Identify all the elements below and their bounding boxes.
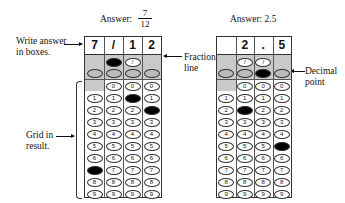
- bubble[interactable]: 7: [144, 166, 160, 175]
- arrow-icon: [64, 44, 82, 45]
- bubble[interactable]: 9: [106, 190, 122, 199]
- bubble[interactable]: 0: [106, 82, 122, 91]
- bubble[interactable]: 1: [106, 94, 122, 103]
- bubble[interactable]: 7: [255, 166, 271, 175]
- bubble[interactable]: 7: [106, 166, 122, 175]
- bubble[interactable]: 2: [255, 106, 271, 115]
- answer-box[interactable]: 1: [123, 37, 142, 54]
- bubble[interactable]: 5: [237, 142, 253, 151]
- bubble[interactable]: 4: [87, 130, 103, 139]
- answer-box[interactable]: /: [104, 37, 123, 54]
- bubble[interactable]: 8: [237, 178, 253, 187]
- answer-box[interactable]: .: [254, 37, 273, 54]
- bubble[interactable]: 2: [87, 106, 103, 115]
- bubble[interactable]: 2: [125, 106, 141, 115]
- bubble[interactable]: 5: [144, 142, 160, 151]
- bubble[interactable]: 1: [144, 94, 160, 103]
- bubble[interactable]: 9: [255, 190, 271, 199]
- bubble[interactable]: 6: [274, 154, 290, 163]
- bubble[interactable]: 5: [87, 142, 103, 151]
- bubble[interactable]: [274, 69, 290, 78]
- bubble[interactable]: 7: [274, 166, 290, 175]
- bubble[interactable]: [144, 69, 160, 78]
- bubble[interactable]: 3: [255, 118, 271, 127]
- bubble[interactable]: /: [125, 58, 141, 67]
- bubble[interactable]: 5: [255, 142, 271, 151]
- bubble[interactable]: 2: [218, 106, 234, 115]
- bubble[interactable]: 2: [106, 106, 122, 115]
- bubble[interactable]: [125, 69, 141, 78]
- bubble[interactable]: 9: [218, 190, 234, 199]
- bubble[interactable]: 9: [237, 190, 253, 199]
- bubble[interactable]: 8: [106, 178, 122, 187]
- bubble[interactable]: 6: [218, 154, 234, 163]
- answer-label-right: Answer: 2.5: [230, 14, 276, 25]
- bubble[interactable]: 8: [125, 178, 141, 187]
- bubble[interactable]: 4: [255, 130, 271, 139]
- bubble[interactable]: 4: [125, 130, 141, 139]
- bubble[interactable]: 3: [274, 118, 290, 127]
- bubble[interactable]: 8: [274, 178, 290, 187]
- bubble[interactable]: 5: [106, 142, 122, 151]
- bubble[interactable]: [87, 69, 103, 78]
- bubble[interactable]: 2: [274, 106, 290, 115]
- bubble[interactable]: 4: [274, 130, 290, 139]
- bubble[interactable]: /: [237, 58, 253, 67]
- bubble[interactable]: 3: [87, 118, 103, 127]
- bubble[interactable]: 9: [274, 190, 290, 199]
- bubble[interactable]: 4: [106, 130, 122, 139]
- bubble[interactable]: 1: [237, 94, 253, 103]
- bubble[interactable]: 1: [87, 94, 103, 103]
- filled-bubble[interactable]: [106, 58, 122, 67]
- bubble[interactable]: 3: [125, 118, 141, 127]
- bubble[interactable]: 1: [218, 94, 234, 103]
- filled-bubble[interactable]: [125, 94, 141, 103]
- bubble[interactable]: 8: [255, 178, 271, 187]
- bubble[interactable]: 4: [218, 130, 234, 139]
- bubble[interactable]: 6: [144, 154, 160, 163]
- bubble[interactable]: 9: [144, 190, 160, 199]
- bubble[interactable]: 0: [274, 82, 290, 91]
- bubble[interactable]: 3: [237, 118, 253, 127]
- bubble[interactable]: 1: [255, 94, 271, 103]
- grid-in-label: Grid in result.: [26, 130, 66, 152]
- bubble[interactable]: 5: [218, 142, 234, 151]
- bubble[interactable]: 6: [87, 154, 103, 163]
- bubble[interactable]: 6: [237, 154, 253, 163]
- bubble[interactable]: 8: [144, 178, 160, 187]
- bubble[interactable]: 8: [218, 178, 234, 187]
- bubble[interactable]: 0: [237, 82, 253, 91]
- bubble[interactable]: 3: [144, 118, 160, 127]
- bubble[interactable]: 7: [218, 166, 234, 175]
- answer-box[interactable]: 7: [85, 37, 104, 54]
- bubble[interactable]: 4: [237, 130, 253, 139]
- bubble[interactable]: 0: [144, 82, 160, 91]
- bubble[interactable]: 6: [106, 154, 122, 163]
- bubble[interactable]: 6: [255, 154, 271, 163]
- filled-bubble[interactable]: [144, 106, 160, 115]
- bubble[interactable]: 3: [218, 118, 234, 127]
- bubble[interactable]: 6: [125, 154, 141, 163]
- bubble[interactable]: 0: [255, 82, 271, 91]
- filled-bubble[interactable]: [237, 106, 253, 115]
- bubble[interactable]: 5: [125, 142, 141, 151]
- bubble[interactable]: 9: [87, 190, 103, 199]
- bubble[interactable]: 9: [125, 190, 141, 199]
- bubble[interactable]: 1: [274, 94, 290, 103]
- bubble[interactable]: 0: [125, 82, 141, 91]
- filled-bubble[interactable]: [87, 166, 103, 175]
- filled-bubble[interactable]: [274, 142, 290, 151]
- bubble[interactable]: 7: [125, 166, 141, 175]
- bubble[interactable]: 8: [87, 178, 103, 187]
- arrow-icon: [291, 71, 305, 72]
- answer-box[interactable]: 2: [142, 37, 161, 54]
- answer-box[interactable]: [217, 37, 236, 54]
- bubble[interactable]: [237, 69, 253, 78]
- answer-box[interactable]: 2: [236, 37, 255, 54]
- bubble[interactable]: 3: [106, 118, 122, 127]
- bubble[interactable]: 4: [144, 130, 160, 139]
- bubble[interactable]: [106, 69, 122, 78]
- bubble[interactable]: 7: [237, 166, 253, 175]
- write-answer-label: Write answer in boxes.: [16, 36, 76, 58]
- answer-box[interactable]: 5: [273, 37, 292, 54]
